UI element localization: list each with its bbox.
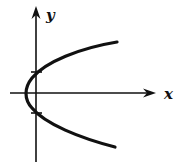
x-axis-label: x <box>163 85 174 103</box>
y-axis-label: y <box>45 6 56 24</box>
parabola-curve <box>26 42 117 147</box>
parabola-graph: y x <box>0 0 181 167</box>
